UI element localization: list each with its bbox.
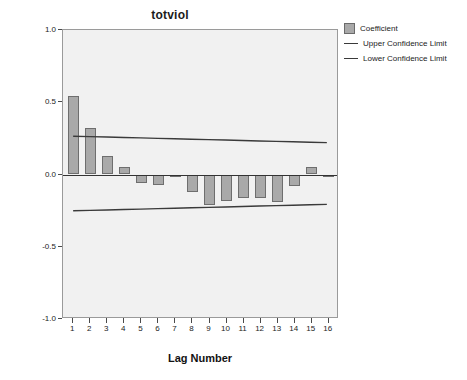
- x-axis-tick-mark: [72, 318, 73, 323]
- x-axis-tick-label: 8: [189, 324, 193, 333]
- x-axis-tick-label: 1: [70, 324, 74, 333]
- x-axis-tick-mark: [226, 318, 227, 323]
- x-axis-title: Lag Number: [62, 352, 338, 364]
- y-axis-tick-label: -0.5: [26, 241, 56, 250]
- x-axis-tick-label: 3: [104, 324, 108, 333]
- x-axis-tick-mark: [277, 318, 278, 323]
- x-axis-tick-label: 14: [289, 324, 298, 333]
- x-axis-tick-mark: [174, 318, 175, 323]
- x-axis-tick-label: 7: [172, 324, 176, 333]
- upper-confidence-limit-line: [73, 136, 327, 142]
- legend-label-lower-confidence-limit: Lower Confidence Limit: [363, 54, 447, 64]
- x-axis-tick-label: 11: [238, 324, 246, 333]
- x-axis-tick-mark: [243, 318, 244, 323]
- legend-box-swatch-icon: [344, 23, 355, 34]
- legend-item-lower-confidence-limit: Lower Confidence Limit: [344, 52, 466, 65]
- x-axis-tick-label: 15: [306, 324, 315, 333]
- x-axis-tick-mark: [140, 318, 141, 323]
- x-axis-tick-mark: [191, 318, 192, 323]
- x-axis-tick-label: 4: [121, 324, 125, 333]
- acf-chart: totviol Coefficient Upper Confidence Lim…: [0, 0, 467, 380]
- legend-line-swatch-icon: [344, 58, 358, 59]
- x-axis-tick-mark: [106, 318, 107, 323]
- chart-title: totviol: [0, 8, 340, 22]
- chart-legend: Coefficient Upper Confidence Limit Lower…: [344, 22, 466, 67]
- x-axis-tick-label: 12: [255, 324, 264, 333]
- x-axis-tick-label: 10: [221, 324, 230, 333]
- legend-item-coefficient: Coefficient: [344, 22, 466, 35]
- x-axis-tick-label: 6: [155, 324, 159, 333]
- legend-line-swatch-icon: [344, 43, 358, 44]
- plot-inner: [63, 30, 337, 317]
- y-axis-tick-label: -1.0: [26, 314, 56, 323]
- x-axis-tick-label: 2: [87, 324, 91, 333]
- lower-confidence-limit-line: [73, 204, 327, 210]
- legend-item-upper-confidence-limit: Upper Confidence Limit: [344, 37, 466, 50]
- x-axis-tick-mark: [89, 318, 90, 323]
- x-axis-tick-mark: [328, 318, 329, 323]
- x-axis-tick-label: 16: [323, 324, 332, 333]
- plot-area: [62, 29, 338, 318]
- x-axis-tick-label: 9: [206, 324, 210, 333]
- x-axis-tick-label: 5: [138, 324, 142, 333]
- x-axis-tick-mark: [260, 318, 261, 323]
- y-axis-tick-label: 0.0: [26, 169, 56, 178]
- y-axis-tick-label: 1.0: [26, 25, 56, 34]
- y-axis-tick-mark: [58, 318, 62, 319]
- x-axis-tick-mark: [209, 318, 210, 323]
- x-axis-tick-mark: [157, 318, 158, 323]
- x-axis-tick-label: 13: [272, 324, 281, 333]
- confidence-limit-lines: [63, 30, 337, 317]
- x-axis-tick-mark: [294, 318, 295, 323]
- y-axis-tick-label: 0.5: [26, 97, 56, 106]
- legend-label-coefficient: Coefficient: [360, 24, 398, 34]
- legend-label-upper-confidence-limit: Upper Confidence Limit: [363, 39, 447, 49]
- x-axis-tick-mark: [311, 318, 312, 323]
- x-axis-tick-mark: [123, 318, 124, 323]
